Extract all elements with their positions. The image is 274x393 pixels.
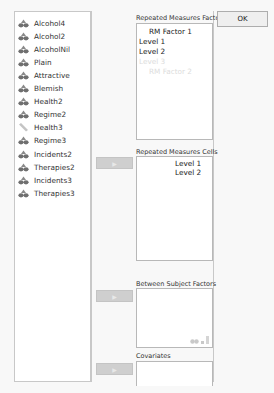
scale-ruler-icon: [206, 336, 209, 344]
variable-item[interactable]: Incidents3: [18, 174, 72, 186]
move-to-covariates-button[interactable]: ▶: [96, 363, 133, 375]
variable-label: Alcohol2: [34, 32, 65, 41]
scale-icon: [18, 19, 29, 28]
scale-icon: [18, 58, 29, 67]
rm-cells-label: Repeated Measures Cells: [136, 148, 218, 156]
variable-item[interactable]: Alcohol2: [18, 30, 65, 42]
covariates-box[interactable]: [136, 361, 213, 386]
panel-divider-left: [91, 11, 92, 382]
scale-icon: [18, 32, 29, 41]
variable-item[interactable]: Therapies3: [18, 187, 75, 199]
between-subject-label: Between Subject Factors: [136, 280, 216, 288]
between-subject-box[interactable]: [136, 288, 213, 348]
rm-level-2[interactable]: Level 2: [139, 47, 165, 56]
variable-item[interactable]: AlcoholNil: [18, 43, 70, 55]
scale-icon: [18, 163, 29, 172]
rm-factors-label: Repeated Measures Factors: [136, 14, 225, 22]
scale-icon: [18, 150, 29, 159]
variable-item[interactable]: Attractive: [18, 69, 70, 81]
panel-divider-right: [213, 11, 214, 382]
variable-label: Plain: [34, 58, 52, 67]
ordinal-icon: [201, 341, 204, 344]
ruler-icon: [18, 123, 29, 132]
scale-icon: [18, 176, 29, 185]
rm-level-1[interactable]: Level 1: [139, 37, 165, 46]
rm-cell-level-2[interactable]: Level 2: [175, 168, 201, 177]
arrow-right-icon: ▶: [112, 293, 117, 300]
variable-item[interactable]: Health3: [18, 122, 63, 134]
variable-label: Regime2: [34, 110, 66, 119]
scale-icon: [18, 189, 29, 198]
rm-factor-1[interactable]: RM Factor 1: [149, 27, 192, 36]
move-to-between-subject-button[interactable]: ▶: [96, 290, 133, 302]
variable-label: Blemish: [34, 84, 63, 93]
variable-label: Health2: [34, 97, 63, 106]
nominal-icon: [190, 339, 199, 344]
variable-item[interactable]: Plain: [18, 56, 52, 68]
variable-item[interactable]: Regime2: [18, 109, 66, 121]
variable-label: AlcoholNil: [34, 45, 70, 54]
scale-icon: [18, 45, 29, 54]
variable-label: Therapies2: [34, 163, 75, 172]
variable-label: Incidents2: [34, 150, 72, 159]
variable-label: Alcohol4: [34, 19, 65, 28]
variable-item[interactable]: Incidents2: [18, 148, 72, 160]
arrow-right-icon: ▶: [112, 366, 117, 373]
rm-factors-box[interactable]: RM Factor 1 Level 1 Level 2 Level 3 RM F…: [136, 23, 213, 140]
arrow-right-icon: ▶: [112, 160, 117, 167]
scale-icon: [18, 97, 29, 106]
variable-item[interactable]: Regime3: [18, 135, 66, 147]
variable-label: Health3: [34, 123, 63, 132]
covariates-label: Covariates: [136, 352, 171, 360]
variable-label: Therapies3: [34, 189, 75, 198]
variable-item[interactable]: Blemish: [18, 83, 63, 95]
variable-label: Attractive: [34, 71, 70, 80]
scale-icon: [18, 136, 29, 145]
ok-button[interactable]: OK: [217, 11, 268, 27]
variable-item[interactable]: Therapies2: [18, 161, 75, 173]
rm-cell-level-1[interactable]: Level 1: [175, 159, 201, 168]
rm-cells-box[interactable]: Level 1 Level 2: [136, 156, 213, 261]
scale-icon: [18, 110, 29, 119]
variable-label: Incidents3: [34, 176, 72, 185]
scale-icon: [18, 71, 29, 80]
move-to-rm-cells-button[interactable]: ▶: [96, 157, 133, 169]
rm-factor-placeholder[interactable]: RM Factor 2: [149, 67, 192, 76]
variable-list[interactable]: Alcohol4Alcohol2AlcoholNilPlainAttractiv…: [14, 11, 91, 382]
rm-level-placeholder[interactable]: Level 3: [139, 57, 165, 66]
variable-label: Regime3: [34, 136, 66, 145]
variable-item[interactable]: Alcohol4: [18, 17, 65, 29]
variable-item[interactable]: Health2: [18, 96, 63, 108]
scale-icon: [18, 84, 29, 93]
